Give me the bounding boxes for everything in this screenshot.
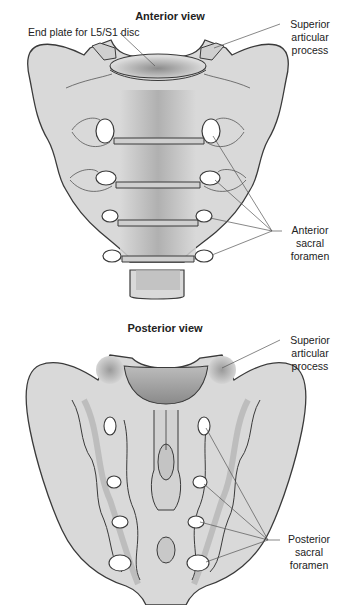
label-line: articular [280, 347, 340, 360]
label-line: sacral [280, 546, 338, 559]
sacrum-illustration [0, 0, 341, 605]
posterior-sacrum [26, 355, 305, 605]
label-line: foramen [280, 559, 338, 572]
label-line: Superior [280, 334, 340, 347]
posterior-superior-articular-label: Superior articular process [280, 334, 340, 373]
label-line: process [280, 360, 340, 373]
sacrum-diagram: Anterior view End plate for L5/S1 disc S… [0, 0, 341, 605]
anterior-sacrum [28, 40, 289, 299]
posterior-sacral-foramen-label: Posterior sacral foramen [280, 533, 338, 572]
label-line: Posterior [280, 533, 338, 546]
posterior-view-title: Posterior view [115, 322, 215, 334]
